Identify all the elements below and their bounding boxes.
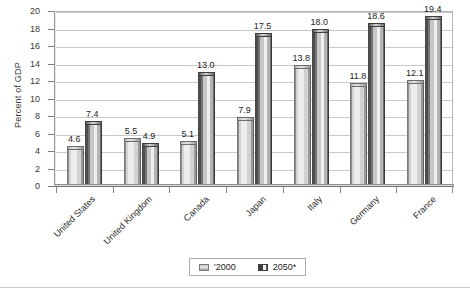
x-axis-category-label: United States: [52, 194, 97, 239]
x-axis-tick: [169, 187, 170, 193]
bar-group: 4.67.4: [67, 11, 102, 186]
bar-cap: [180, 141, 197, 145]
bar: [85, 121, 102, 186]
legend-entry[interactable]: '2000: [199, 262, 236, 272]
bar-value-label: 18.6: [367, 11, 385, 21]
bar-body: [85, 124, 102, 186]
bar-cap: [142, 143, 159, 147]
bar: [255, 33, 272, 186]
x-axis-category-label: France: [411, 194, 438, 221]
bar-group: 11.818.6: [350, 11, 385, 186]
legend-label: '2000: [214, 262, 236, 272]
y-axis-tick-label: 16: [30, 41, 40, 51]
bar-value-label: 11.8: [349, 71, 366, 81]
bar-body: [350, 86, 367, 186]
bar-body: [198, 75, 215, 186]
bar-value-label: 5.5: [125, 126, 138, 136]
y-axis-tick-label: 10: [30, 94, 40, 104]
bar-body: [180, 144, 197, 186]
x-axis-category-label: Italy: [306, 194, 325, 213]
bar-body: [124, 141, 141, 186]
bar-cap: [425, 16, 442, 20]
bar: [180, 141, 197, 186]
bar-body: [237, 120, 254, 186]
bar-cap: [237, 117, 254, 121]
bar-body: [368, 26, 385, 186]
y-axis-tick-label: 0: [35, 181, 40, 191]
y-axis-tick-labels: 20181614121086420: [18, 6, 40, 186]
bar-cap: [67, 146, 84, 150]
bar-cap: [294, 65, 311, 69]
bar-value-label: 13.0: [197, 60, 215, 70]
x-axis-category-label: Canada: [181, 194, 210, 223]
bar: [425, 16, 442, 186]
bar-value-label: 13.8: [292, 53, 310, 63]
bar-body: [407, 83, 424, 186]
bar: [350, 83, 367, 186]
legend-label: 2050*: [273, 262, 297, 272]
y-axis-tick-label: 14: [30, 59, 40, 69]
y-axis-tick-label: 18: [30, 24, 40, 34]
bar-cap: [312, 29, 329, 33]
bar-group: 12.119.4: [407, 11, 442, 186]
bar-chart: Percent of GDP 20181614121086420 4.67.45…: [0, 0, 470, 288]
y-axis-tick-label: 6: [35, 129, 40, 139]
bar-body: [312, 32, 329, 187]
y-axis-tick-label: 20: [30, 6, 40, 16]
bar-value-label: 12.1: [406, 68, 424, 78]
bar-cap: [350, 83, 367, 87]
y-axis-tick-label: 8: [35, 111, 40, 121]
bar-value-label: 4.6: [68, 134, 81, 144]
bar-group: 5.113.0: [180, 11, 215, 186]
bar-value-label: 19.4: [424, 4, 442, 14]
x-axis-tick: [56, 187, 57, 193]
bar: [124, 138, 141, 186]
bar-value-label: 5.1: [182, 129, 195, 139]
bar-group: 7.917.5: [237, 11, 272, 186]
bar-cap: [368, 23, 385, 27]
x-axis-category-label: United Kingdom: [102, 194, 154, 246]
bar-cap: [255, 33, 272, 37]
bars-layer: 4.67.45.54.95.113.07.917.513.818.011.818…: [56, 11, 453, 186]
x-axis-ticks: [56, 187, 453, 193]
x-axis-category-label: Japan: [243, 194, 267, 218]
bar: [368, 23, 385, 186]
bar-value-label: 7.9: [238, 105, 251, 115]
x-axis-tick: [113, 187, 114, 193]
bar-body: [142, 146, 159, 186]
y-axis-tick-label: 4: [35, 146, 40, 156]
bar-group: 5.54.9: [124, 11, 159, 186]
x-axis-tick: [226, 187, 227, 193]
legend-swatch-icon: [199, 264, 209, 271]
bar-value-label: 4.9: [143, 131, 156, 141]
bar-value-label: 7.4: [86, 109, 99, 119]
legend-swatch-icon: [258, 264, 268, 271]
legend-entry[interactable]: 2050*: [258, 262, 297, 272]
bar-body: [294, 68, 311, 186]
bar: [237, 117, 254, 186]
bar: [67, 146, 84, 186]
bar: [142, 143, 159, 186]
bar-cap: [124, 138, 141, 142]
bar-body: [425, 19, 442, 186]
x-axis-tick: [396, 187, 397, 193]
y-axis-tick-label: 2: [35, 164, 40, 174]
bar-cap: [198, 72, 215, 76]
x-axis-tick: [452, 187, 453, 193]
bar: [312, 29, 329, 187]
bar-cap: [407, 80, 424, 84]
bar: [294, 65, 311, 186]
bar-value-label: 18.0: [310, 17, 328, 27]
bar: [407, 80, 424, 186]
x-axis-category-labels: United StatesUnited KingdomCanadaJapanIt…: [56, 194, 453, 250]
bar-value-label: 17.5: [254, 21, 272, 31]
x-axis-category-label: Germany: [348, 194, 381, 227]
x-axis-tick: [283, 187, 284, 193]
bar-body: [255, 36, 272, 186]
bar-cap: [85, 121, 102, 125]
x-axis-tick: [340, 187, 341, 193]
y-axis-tick-label: 12: [30, 76, 40, 86]
legend: '20002050*: [189, 258, 306, 276]
bar-group: 13.818.0: [294, 11, 329, 186]
bar: [198, 72, 215, 186]
